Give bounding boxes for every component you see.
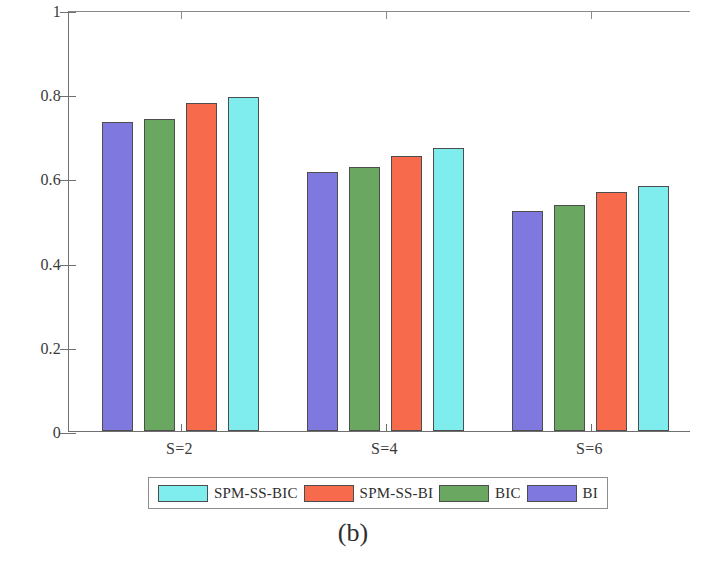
- y-tick-0.8: [60, 96, 69, 97]
- x-tick-S=4: [386, 424, 387, 432]
- legend-swatch-spm-ss-bic: [158, 485, 208, 502]
- legend-label: BIC: [495, 485, 521, 502]
- bar-S4-bi: [307, 172, 338, 431]
- x-tick-top-S=6: [591, 12, 592, 19]
- y-tick-0.6: [60, 180, 69, 181]
- y-tick-inner-0.2: [69, 349, 76, 350]
- y-tick-label: 0: [7, 425, 61, 441]
- y-tick-label: 0.8: [7, 88, 61, 104]
- y-tick-label: 0.2: [7, 341, 61, 357]
- y-tick-inner-0.4: [69, 265, 76, 266]
- y-tick-inner-1: [69, 12, 76, 13]
- x-tick-label: S=6: [545, 440, 635, 458]
- y-tick-inner-0: [69, 433, 76, 434]
- y-tick-0: [60, 433, 69, 434]
- chart-legend: SPM-SS-BICSPM-SS-BIBICBI: [148, 477, 608, 509]
- x-tick-top-S=2: [181, 12, 182, 19]
- plot-area: 00.20.40.60.81: [68, 11, 690, 432]
- y-tick-label: 0.6: [7, 172, 61, 188]
- legend-label: SPM-SS-BIC: [214, 485, 298, 502]
- legend-entry-bic[interactable]: BIC: [439, 485, 521, 502]
- legend-swatch-spm-ss-bi: [304, 485, 354, 502]
- bar-S6-bi: [512, 211, 543, 431]
- legend-label: SPM-SS-BI: [360, 485, 434, 502]
- x-tick-label: S=4: [340, 440, 430, 458]
- legend-label: BI: [583, 485, 598, 502]
- bar-S4-spm-ss-bic: [433, 148, 464, 431]
- bar-S2-spm-ss-bi: [186, 103, 217, 431]
- legend-entry-spm-ss-bi[interactable]: SPM-SS-BI: [304, 485, 434, 502]
- x-tick-label: S=2: [135, 440, 225, 458]
- bar-S6-bic: [554, 205, 585, 431]
- x-tick-S=2: [181, 424, 182, 432]
- figure-panel: 00.20.40.60.81 Kappa S=2S=4S=6 SPM-SS-BI…: [0, 0, 706, 564]
- bar-S2-bi: [102, 122, 133, 431]
- y-tick-0.4: [60, 265, 69, 266]
- bar-S2-spm-ss-bic: [228, 97, 259, 431]
- figure-caption: (b): [0, 518, 706, 548]
- y-tick-inner-0.8: [69, 96, 76, 97]
- legend-swatch-bic: [439, 485, 489, 502]
- y-tick-label: 1: [7, 4, 61, 20]
- legend-entry-bi[interactable]: BI: [527, 485, 598, 502]
- bar-S2-bic: [144, 119, 175, 431]
- y-tick-label: 0.4: [7, 257, 61, 273]
- bar-S4-bic: [349, 167, 380, 431]
- legend-entry-spm-ss-bic[interactable]: SPM-SS-BIC: [158, 485, 298, 502]
- y-tick-0.2: [60, 349, 69, 350]
- y-tick-1: [60, 12, 69, 13]
- bar-S6-spm-ss-bi: [596, 192, 627, 431]
- x-tick-S=6: [591, 424, 592, 432]
- x-tick-top-S=4: [386, 12, 387, 19]
- legend-swatch-bi: [527, 485, 577, 502]
- y-tick-inner-0.6: [69, 180, 76, 181]
- bar-S6-spm-ss-bic: [638, 186, 669, 431]
- bar-S4-spm-ss-bi: [391, 156, 422, 431]
